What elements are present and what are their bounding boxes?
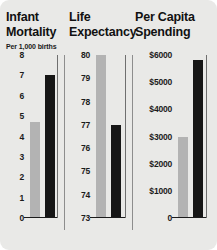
y-axis-tick-label: 77	[81, 120, 90, 130]
y-axis-ticks: $6000$5000$4000$3000$2000$10000	[134, 55, 172, 218]
panel-life-expectancy: 8079787776757473	[66, 55, 134, 230]
y-axis-tick-label: $1000	[149, 186, 172, 196]
y-axis-tick-label: 4	[19, 132, 24, 142]
panel-header-infant-mortality: Infant Mortality	[6, 10, 56, 39]
x-axis-line	[90, 217, 126, 218]
panel-header-per-capita-spending: Per Capita Spending	[135, 10, 195, 39]
y-axis-tick-label: $6000	[149, 50, 172, 60]
y-axis-tick-label: 80	[81, 50, 90, 60]
bar-group	[28, 55, 58, 218]
plot-area: 8079787776757473	[66, 55, 134, 230]
y-axis-line-right	[125, 55, 126, 218]
bar-group	[94, 55, 126, 218]
y-axis-tick-label: 75	[81, 166, 90, 176]
y-axis-tick-label: 8	[19, 50, 24, 60]
bar-light	[96, 55, 106, 218]
panel-subtitle-infant-mortality: Per 1,000 births	[6, 43, 57, 50]
y-axis-tick-label: 76	[81, 143, 90, 153]
panel-per-capita-spending: $6000$5000$4000$3000$2000$10000	[134, 55, 215, 230]
y-axis-tick-label: 5	[19, 111, 24, 121]
y-axis-tick-label: 74	[81, 190, 90, 200]
chart-figure: Infant Mortality Life Expectancy Per Cap…	[0, 0, 217, 250]
y-axis-ticks: 8079787776757473	[66, 55, 90, 218]
y-axis-line-right	[57, 55, 58, 218]
y-axis-tick-label: 2	[19, 172, 24, 182]
y-axis-tick-label: 0	[167, 213, 172, 223]
bar-dark	[45, 75, 55, 218]
y-axis-tick-label: $2000	[149, 159, 172, 169]
y-axis-ticks: 876543210	[2, 55, 24, 218]
y-axis-line-right	[206, 55, 207, 218]
panel-header-life-expectancy: Life Expectancy	[69, 10, 136, 39]
y-axis-tick-label: $4000	[149, 104, 172, 114]
y-axis-tick-label: 0	[19, 213, 24, 223]
y-axis-tick-label: $3000	[149, 132, 172, 142]
bar-dark	[193, 60, 203, 218]
x-axis-line	[172, 217, 207, 218]
panel-infant-mortality: 876543210	[2, 55, 66, 230]
y-axis-tick-label: $5000	[149, 77, 172, 87]
y-axis-tick-label: 78	[81, 97, 90, 107]
x-axis-line	[24, 217, 58, 218]
bar-group	[176, 55, 208, 218]
y-axis-tick-label: 7	[19, 70, 24, 80]
bar-light	[30, 122, 40, 218]
y-axis-tick-label: 73	[81, 213, 90, 223]
y-axis-tick-label: 1	[19, 193, 24, 203]
plot-area: 876543210	[2, 55, 66, 230]
bar-dark	[111, 125, 121, 218]
y-axis-tick-label: 79	[81, 73, 90, 83]
y-axis-tick-label: 3	[19, 152, 24, 162]
y-axis-tick-label: 6	[19, 91, 24, 101]
panel-headers: Infant Mortality Life Expectancy Per Cap…	[0, 10, 217, 40]
plot-area: $6000$5000$4000$3000$2000$10000	[134, 55, 215, 230]
bar-light	[178, 137, 188, 219]
